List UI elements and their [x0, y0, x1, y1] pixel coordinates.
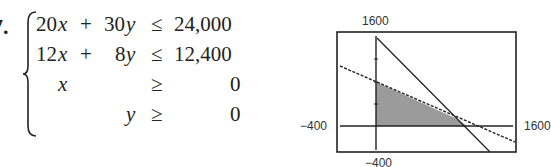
- line-20x-30y: [340, 66, 515, 142]
- feasible-region: [376, 82, 467, 126]
